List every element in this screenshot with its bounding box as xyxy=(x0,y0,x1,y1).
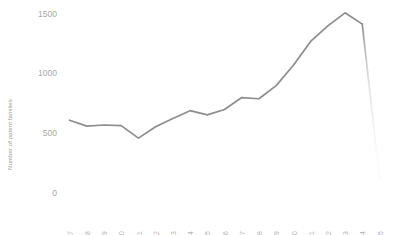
x-tick-label: 2012 xyxy=(324,231,333,235)
x-tick-label: 2014 xyxy=(358,231,367,235)
line-chart: Number of patent families 1500 1000 500 … xyxy=(0,0,410,235)
y-axis-title: Number of patent families xyxy=(7,99,13,170)
chart-background xyxy=(0,0,410,235)
x-tick-label: 2007 xyxy=(238,231,247,235)
chart-canvas: Number of patent families 1500 1000 500 … xyxy=(0,0,410,235)
x-tick-label: 2000 xyxy=(117,231,126,235)
x-tick-label: 2006 xyxy=(221,231,230,235)
x-tick-label: 2001 xyxy=(135,231,144,235)
y-tick-label: 1500 xyxy=(38,9,57,19)
x-tick-label: 2009 xyxy=(272,231,281,235)
y-tick-label: 0 xyxy=(52,188,57,198)
x-tick-label: 2013 xyxy=(341,231,350,235)
x-tick-label: 2015 xyxy=(376,231,385,235)
y-axis-title-text: Number of patent families xyxy=(7,99,13,170)
x-tick-label: 1998 xyxy=(83,231,92,235)
x-tick-label: 2004 xyxy=(186,231,195,235)
y-tick-label: 1000 xyxy=(38,68,57,78)
x-tick-label: 2011 xyxy=(307,231,316,235)
y-tick-label: 500 xyxy=(43,128,57,138)
x-tick-label: 2002 xyxy=(152,231,161,235)
x-tick-label: 2003 xyxy=(169,231,178,235)
x-tick-label: 2010 xyxy=(290,231,299,235)
x-tick-label: 2005 xyxy=(203,231,212,235)
x-tick-label: 1999 xyxy=(100,231,109,235)
x-tick-label: 1997 xyxy=(66,231,75,235)
x-tick-label: 2008 xyxy=(255,231,264,235)
